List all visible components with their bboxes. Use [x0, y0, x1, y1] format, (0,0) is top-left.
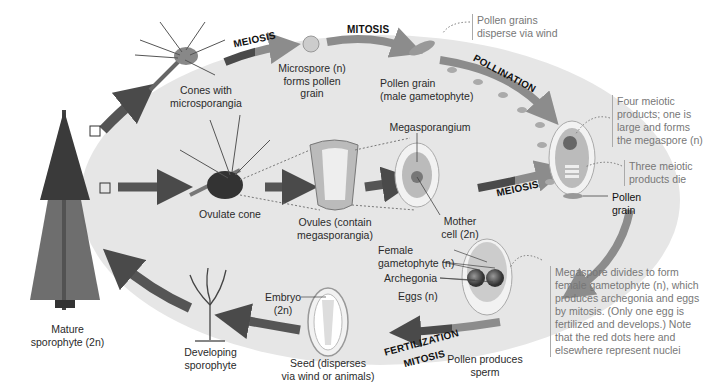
label-line: grain: [612, 204, 652, 217]
label-line: Mother: [430, 215, 490, 228]
label-line: (male gametophyte): [380, 90, 490, 103]
note-line: Megaspore divides to form: [555, 266, 699, 279]
label-line: Seed (disperses: [278, 357, 378, 370]
label-female-gametophyte: Female gametophyte (n): [378, 244, 478, 269]
label-ovules: Ovules (contain megasporangia): [295, 216, 375, 241]
note-pollen-disperse: Pollen grains disperse via wind: [472, 14, 558, 40]
note-line: that the red dots here and: [555, 331, 699, 344]
note-line: fertilized and develops.) Note: [555, 318, 699, 331]
label-pollen-produces-sperm: Pollen produces sperm: [440, 353, 530, 378]
stage-mitosis-top: MITOSIS: [347, 24, 389, 35]
label-line: Pollen produces: [440, 353, 530, 366]
note-line: by mitosis. (Only one egg is: [555, 305, 699, 318]
label-line: Mature: [25, 323, 110, 336]
label-line: Developing: [178, 346, 243, 359]
label-line: Ovules (contain: [295, 216, 375, 229]
label-line: Microspore (n): [272, 62, 352, 75]
note-line: Four meiotic: [617, 95, 703, 108]
label-pollen-grain-right: Pollen grain: [612, 191, 652, 216]
note-three-meiotic-die: Three meiotic products die: [624, 160, 693, 186]
note-line: the megaspore (n): [617, 134, 703, 147]
label-developing-sporophyte: Developing sporophyte: [178, 346, 243, 371]
note-line: large and forms: [617, 121, 703, 134]
label-seed: Seed (disperses via wind or animals): [278, 357, 378, 382]
note-line: elsewhere represent nuclei: [555, 344, 699, 357]
arrow-ovule-to-megasporangium: [365, 182, 400, 187]
label-mother-cell: Mother cell (2n): [430, 215, 490, 240]
label-line: Cones with: [166, 84, 246, 97]
label-line: via wind or animals): [278, 370, 378, 383]
label-embryo: Embryo (2n): [263, 291, 303, 316]
label-line: forms pollen: [272, 75, 352, 88]
label-line: Pollen: [612, 191, 652, 204]
note-line: produces archegonia and eggs: [555, 292, 699, 305]
label-line: Embryo: [263, 291, 303, 304]
label-line: Pollen grain: [380, 77, 490, 90]
label-pollen-grain-male: Pollen grain (male gametophyte): [380, 77, 490, 102]
label-megasporangium: Megasporangium: [380, 121, 480, 134]
label-cones-with-microsporangia: Cones with microsporangia: [166, 84, 246, 109]
label-line: microsporangia: [166, 97, 246, 110]
note-line: products; one is: [617, 108, 703, 121]
note-line: products die: [629, 173, 693, 186]
label-line: megasporangia): [295, 229, 375, 242]
label-line: grain: [272, 87, 352, 100]
note-megaspore-divides: Megaspore divides to form female gametop…: [550, 266, 699, 357]
label-eggs: Eggs (n): [398, 290, 438, 303]
note-line: female gametophyte (n), which: [555, 279, 699, 292]
label-line: sperm: [440, 366, 530, 379]
label-microspore: Microspore (n) forms pollen grain: [272, 62, 352, 100]
label-archegonia: Archegonia: [384, 272, 437, 285]
label-line: sporophyte (2n): [25, 336, 110, 349]
note-four-meiotic-products: Four meiotic products; one is large and …: [612, 95, 703, 147]
label-ovulate-cone: Ovulate cone: [190, 208, 270, 221]
microspore-illustration: [303, 36, 319, 52]
label-line: cell (2n): [430, 228, 490, 241]
label-line: sporophyte: [178, 359, 243, 372]
label-mature-sporophyte: Mature sporophyte (2n): [25, 323, 110, 348]
note-line: disperse via wind: [477, 27, 558, 40]
label-line: Female: [378, 244, 478, 257]
note-line: Pollen grains: [477, 14, 558, 27]
label-line: gametophyte (n): [378, 257, 478, 270]
label-line: (2n): [263, 304, 303, 317]
note-line: Three meiotic: [629, 160, 693, 173]
